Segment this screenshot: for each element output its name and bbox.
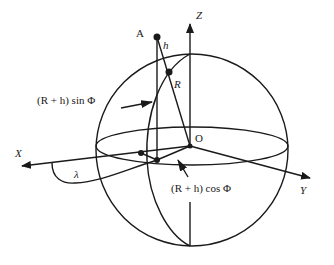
y-axis <box>190 146 310 178</box>
label-height: h <box>163 39 169 51</box>
label-z-axis: Z <box>196 9 203 21</box>
line-a-to-origin <box>157 37 190 146</box>
label-radius: R <box>173 78 181 90</box>
origin-point <box>188 144 193 149</box>
geodetic-sphere-diagram: A h R O Z X Y λ (R + h) sin Φ (R + h) co… <box>0 0 334 265</box>
label-point-a: A <box>136 27 144 39</box>
label-origin: O <box>195 132 203 144</box>
projection-point <box>154 157 160 163</box>
cos-pointer-arrow <box>178 160 188 177</box>
label-sin-component: (R + h) sin Φ <box>37 94 95 107</box>
sin-pointer-arrow <box>121 102 152 108</box>
equator-point <box>138 150 144 156</box>
label-cos-component: (R + h) cos Φ <box>171 182 231 195</box>
surface-point <box>166 69 173 76</box>
sphere-outline <box>96 54 288 246</box>
point-a <box>154 34 161 41</box>
label-x-axis: X <box>14 147 23 159</box>
label-y-axis: Y <box>300 184 308 196</box>
longitude-arc <box>52 160 157 183</box>
label-longitude: λ <box>73 168 79 180</box>
